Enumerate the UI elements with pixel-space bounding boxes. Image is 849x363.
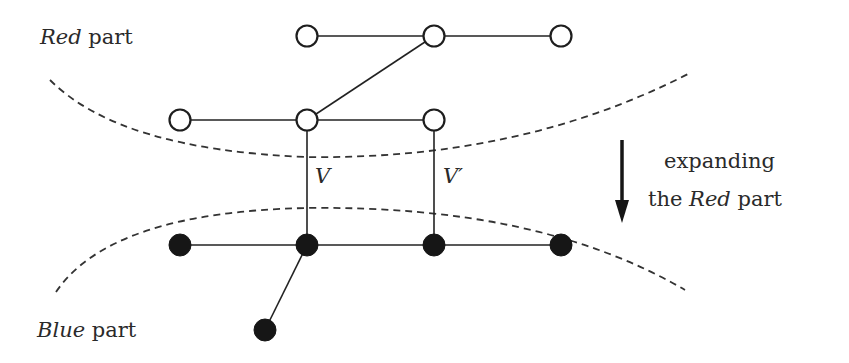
blue-part-boundary bbox=[56, 208, 685, 292]
blue-part-label: Blue part bbox=[37, 320, 136, 341]
blue-node bbox=[423, 234, 445, 256]
red-node bbox=[297, 110, 318, 131]
blue-node bbox=[550, 234, 572, 256]
blue-nodes bbox=[169, 234, 572, 341]
red-node bbox=[170, 110, 191, 131]
edge-v-prime-label: V′ bbox=[443, 166, 463, 187]
red-node bbox=[551, 26, 572, 47]
arrow-caption-italic: Red bbox=[689, 187, 731, 211]
red-node bbox=[297, 26, 318, 47]
red-part-label: Red part bbox=[40, 27, 133, 48]
edges bbox=[180, 36, 561, 330]
arrow-caption-pre: the bbox=[648, 187, 689, 211]
arrow-caption-post: part bbox=[731, 187, 782, 211]
edge-r2-r5 bbox=[307, 36, 434, 120]
graph-diagram bbox=[0, 0, 849, 363]
red-part-label-rest: part bbox=[82, 25, 133, 49]
red-part-boundary bbox=[50, 74, 688, 157]
red-node bbox=[424, 26, 445, 47]
edge-b2-b5 bbox=[265, 245, 307, 330]
blue-part-label-rest: part bbox=[85, 318, 136, 342]
arrow-down-icon bbox=[615, 140, 629, 223]
blue-part-label-italic: Blue bbox=[37, 318, 85, 342]
blue-node bbox=[254, 319, 276, 341]
edge-v-label: V bbox=[315, 166, 330, 187]
blue-node bbox=[296, 234, 318, 256]
blue-node bbox=[169, 234, 191, 256]
red-node bbox=[424, 110, 445, 131]
arrow-caption-line1: expanding bbox=[664, 151, 775, 172]
red-part-label-italic: Red bbox=[40, 25, 82, 49]
arrow-caption-line2: the Red part bbox=[648, 189, 782, 210]
